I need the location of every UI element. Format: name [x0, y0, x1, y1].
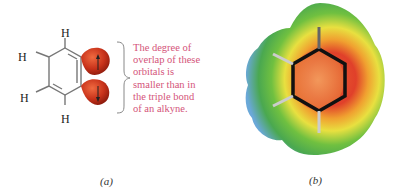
figure: H H H H The degree of overlap of these o… [0, 0, 401, 196]
annotation-line: of an alkyne. [133, 103, 233, 115]
electrostatic-potential-map [246, 3, 385, 155]
orbital-overlap-annotation: The degree of overlap of these orbitals … [133, 42, 233, 115]
sp2-orbitals [81, 48, 110, 105]
hydrogen-top: H [61, 26, 70, 41]
caption-b: (b) [309, 174, 322, 186]
hydrogen-lower-left: H [20, 91, 29, 106]
hydrogen-upper-left: H [18, 50, 27, 65]
annotation-line: orbitals is [133, 66, 233, 78]
caption-a: (a) [100, 175, 113, 187]
annotation-line: The degree of [133, 42, 233, 54]
brace [117, 42, 130, 113]
benzyne-ring [36, 38, 81, 105]
annotation-line: overlap of these [133, 54, 233, 66]
annotation-line: the triple bond [133, 91, 233, 103]
annotation-line: smaller than in [133, 79, 233, 91]
hydrogen-bottom: H [61, 112, 70, 127]
